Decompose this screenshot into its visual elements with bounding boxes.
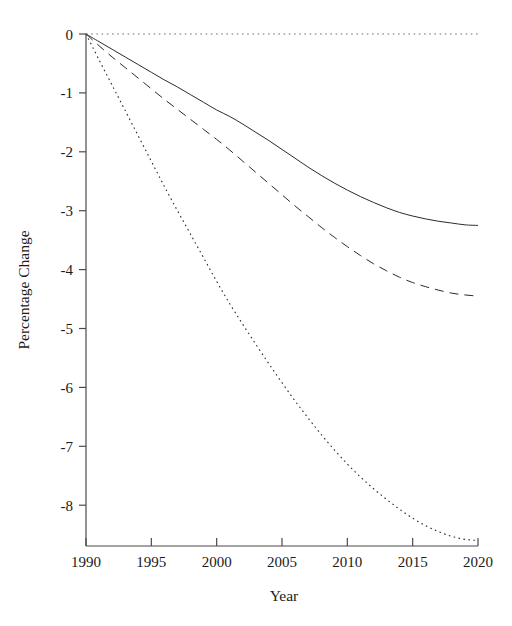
y-tick-label: -1 [61,85,74,101]
x-tick-label: 1990 [71,554,101,570]
chart-figure: 0-1-2-3-4-5-6-7-8 1990199520002005201020… [0,0,512,626]
dashed-series [86,34,478,296]
y-tick-label: -8 [61,498,74,514]
x-tick-label: 1995 [136,554,166,570]
x-tick-label: 2000 [202,554,232,570]
x-tick-label: 2010 [332,554,362,570]
y-axis-label: Percentage Change [15,230,32,349]
y-tick-label: -3 [61,203,74,219]
y-tick-label: -4 [61,262,74,278]
x-tick-label: 2005 [267,554,297,570]
x-tick-label: 2020 [463,554,493,570]
x-axis-ticks: 1990199520002005201020152020 [71,538,493,570]
line-chart: 0-1-2-3-4-5-6-7-8 1990199520002005201020… [0,0,512,626]
labels-group: Percentage Change Year [15,230,299,604]
y-tick-label: -7 [61,439,74,455]
y-tick-label: -5 [61,321,74,337]
dotted-series [86,34,478,541]
x-tick-label: 2015 [398,554,428,570]
y-tick-label: -6 [61,380,74,396]
y-axis-ticks: 0-1-2-3-4-5-6-7-8 [61,27,87,514]
axes-group: 0-1-2-3-4-5-6-7-8 1990199520002005201020… [61,27,494,571]
x-axis-label: Year [270,587,299,604]
y-tick-label: -2 [61,144,74,160]
y-tick-label: 0 [66,27,74,43]
series-group [86,34,478,541]
solid-series [86,34,478,225]
